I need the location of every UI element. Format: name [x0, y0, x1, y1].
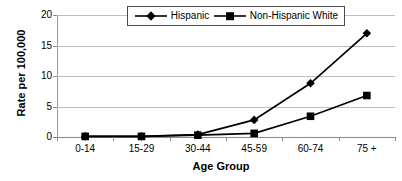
y-tick-label-5: 5	[28, 102, 52, 112]
y-tick-label-10: 10	[28, 71, 52, 81]
legend-item-non-hispanic-white[interactable]: Non-Hispanic White	[213, 10, 338, 22]
y-tick-mark-10	[53, 76, 57, 77]
x-tick-label-3: 45-59	[241, 143, 267, 154]
chart-legend: Hispanic Non-Hispanic White	[127, 6, 345, 26]
x-tick-mark-4	[282, 137, 283, 141]
y-tick-label-20: 20	[28, 10, 52, 20]
x-tick-label-4: 60-74	[298, 143, 324, 154]
y-tick-label-0: 0	[28, 132, 52, 142]
x-tick-mark-0	[57, 137, 58, 141]
y-tick-mark-15	[53, 46, 57, 47]
x-tick-mark-1	[113, 137, 114, 141]
y-axis-title: Rate per 100,000	[15, 8, 27, 138]
y-tick-label-15: 15	[28, 41, 52, 51]
gridline-15	[57, 46, 395, 47]
x-tick-label-5: 75 +	[357, 143, 377, 154]
legend-item-hispanic[interactable]: Hispanic	[134, 10, 209, 22]
x-axis-title: Age Group	[0, 160, 402, 172]
x-tick-mark-6	[395, 137, 396, 141]
x-tick-mark-2	[170, 137, 171, 141]
x-tick-mark-3	[226, 137, 227, 141]
x-tick-mark-5	[339, 137, 340, 141]
legend-label-hispanic: Hispanic	[171, 11, 209, 21]
x-tick-label-0: 0-14	[75, 143, 95, 154]
gridline-10	[57, 76, 395, 77]
y-tick-mark-5	[53, 107, 57, 108]
square-marker-icon	[213, 10, 247, 22]
line-chart: Rate per 100,000 05101520 0-1415-2930-44…	[0, 0, 402, 181]
diamond-marker-icon	[134, 10, 168, 22]
y-tick-mark-20	[53, 15, 57, 16]
x-tick-label-2: 30-44	[185, 143, 211, 154]
plot-area	[57, 15, 395, 137]
x-tick-label-1: 15-29	[129, 143, 155, 154]
gridline-5	[57, 107, 395, 108]
legend-label-non-hispanic-white: Non-Hispanic White	[250, 11, 338, 21]
y-axis-tick-labels: 05101520	[28, 0, 52, 181]
